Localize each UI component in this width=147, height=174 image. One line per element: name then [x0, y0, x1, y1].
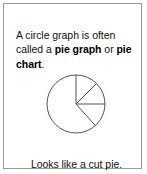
pie-chart-diagram — [42, 70, 110, 138]
definition-paragraph: A circle graph is often called a pie gra… — [16, 28, 138, 72]
definition-text-part2: or — [101, 43, 116, 55]
card-border-frame: A circle graph is often called a pie gra… — [3, 3, 142, 169]
circle-graph-card: A circle graph is often called a pie gra… — [0, 0, 147, 174]
caption-label: Looks like a cut pie. — [12, 157, 141, 171]
definition-emphasis-pie-graph: pie graph — [55, 43, 102, 55]
definition-text-part3: . — [41, 58, 44, 70]
